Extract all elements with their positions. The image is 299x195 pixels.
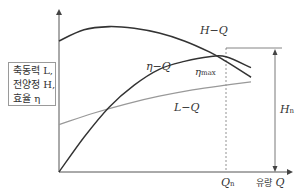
y-label-line-1: 축동력 L, [13, 64, 55, 78]
qn-label: Qn [221, 176, 235, 189]
eta-max-sub: max [201, 69, 216, 77]
hq-label: H−Q [200, 24, 228, 37]
hn-label: Hn [280, 103, 294, 116]
x-axis-symbol: Q [276, 176, 285, 189]
hn-sub: n [290, 107, 295, 115]
y-label-line-3: 효율 η [13, 92, 55, 106]
qn-sub: n [230, 180, 235, 188]
lq-label: L−Q [174, 101, 200, 114]
hn-arrow-bottom [273, 166, 278, 172]
etaq-curve [59, 56, 251, 172]
eta-max-label: ηmax [195, 66, 216, 77]
x-axis-label: 유량 Q [256, 176, 285, 189]
y-axis-label-box: 축동력 L, 전양정 H, 효율 η [8, 62, 56, 106]
lq-curve [59, 82, 251, 125]
hn-symbol: H [280, 103, 290, 116]
hn-arrow-top [273, 49, 278, 55]
x-axis-korean: 유량 [256, 178, 272, 188]
y-label-line-2: 전양정 H, [13, 78, 55, 92]
etaq-label: η−Q [146, 60, 171, 73]
qn-symbol: Q [221, 176, 230, 189]
